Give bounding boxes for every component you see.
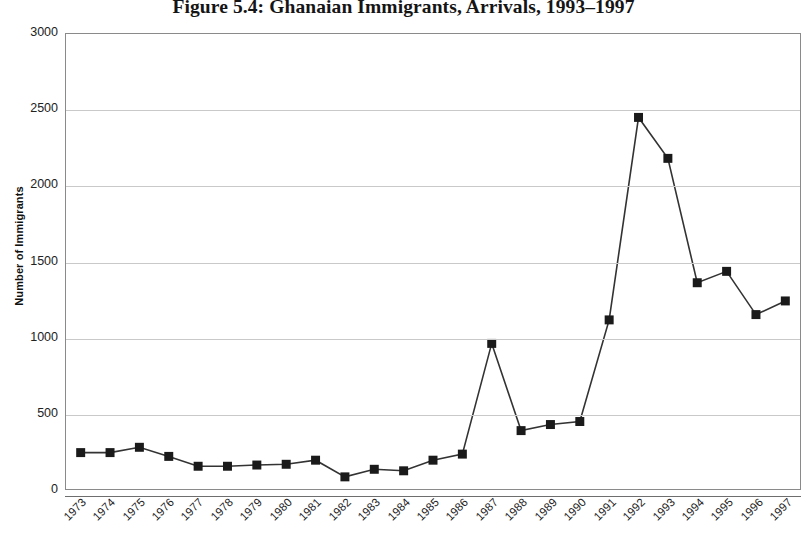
y-tick-label: 1500 xyxy=(14,255,58,268)
gridline xyxy=(66,415,800,416)
x-tick-label: 1982 xyxy=(326,496,353,523)
data-point-marker[interactable] xyxy=(751,310,760,319)
data-point-marker[interactable] xyxy=(693,278,702,287)
x-tick-label: 1996 xyxy=(738,496,765,523)
data-point-marker[interactable] xyxy=(429,456,438,465)
data-point-marker[interactable] xyxy=(634,113,643,122)
data-point-marker[interactable] xyxy=(605,315,614,324)
gridline xyxy=(66,263,800,264)
data-point-marker[interactable] xyxy=(370,465,379,474)
y-tick-label: 1000 xyxy=(14,331,58,344)
data-point-marker[interactable] xyxy=(487,339,496,348)
data-point-marker[interactable] xyxy=(223,462,232,471)
y-tick-label: 0 xyxy=(14,483,58,496)
y-tick-label: 3000 xyxy=(14,26,58,39)
x-tick-label: 1973 xyxy=(61,496,88,523)
data-point-marker[interactable] xyxy=(722,267,731,276)
x-tick-label: 1975 xyxy=(120,496,147,523)
gridline xyxy=(66,186,800,187)
plot-area xyxy=(65,33,801,490)
data-point-marker[interactable] xyxy=(663,154,672,163)
y-tick-label: 2000 xyxy=(14,178,58,191)
x-tick-label: 1980 xyxy=(267,496,294,523)
x-tick-label: 1978 xyxy=(208,496,235,523)
gridline xyxy=(66,339,800,340)
x-tick-label: 1990 xyxy=(562,496,589,523)
x-tick-label: 1991 xyxy=(591,496,618,523)
x-tick-label: 1995 xyxy=(709,496,736,523)
data-point-marker[interactable] xyxy=(781,296,790,305)
x-tick-label: 1979 xyxy=(238,496,265,523)
data-point-marker[interactable] xyxy=(76,448,85,457)
x-tick-label: 1994 xyxy=(679,496,706,523)
figure-container: Figure 5.4: Ghanaian Immigrants, Arrival… xyxy=(0,0,807,538)
line-series xyxy=(66,34,800,489)
x-tick-label: 1981 xyxy=(297,496,324,523)
x-tick-label: 1983 xyxy=(356,496,383,523)
x-tick-label: 1974 xyxy=(91,496,118,523)
data-point-marker[interactable] xyxy=(458,450,467,459)
data-point-marker[interactable] xyxy=(164,452,173,461)
data-point-marker[interactable] xyxy=(340,472,349,481)
series-line xyxy=(81,117,786,476)
data-point-marker[interactable] xyxy=(252,461,261,470)
x-tick-label: 1987 xyxy=(473,496,500,523)
data-point-marker[interactable] xyxy=(575,417,584,426)
x-tick-label: 1984 xyxy=(385,496,412,523)
x-tick-label: 1997 xyxy=(768,496,795,523)
y-axis-tick-labels: 050010001500200025003000 xyxy=(0,0,58,538)
x-tick-label: 1988 xyxy=(503,496,530,523)
y-tick-label: 2500 xyxy=(14,102,58,115)
data-point-marker[interactable] xyxy=(517,426,526,435)
x-axis-tick-labels: 1973197419751976197719781979198019811982… xyxy=(65,490,801,538)
y-tick-label: 500 xyxy=(14,407,58,420)
data-point-marker[interactable] xyxy=(106,448,115,457)
data-point-marker[interactable] xyxy=(135,443,144,452)
x-tick-label: 1992 xyxy=(621,496,648,523)
data-point-marker[interactable] xyxy=(546,420,555,429)
x-tick-label: 1993 xyxy=(650,496,677,523)
x-tick-label: 1977 xyxy=(179,496,206,523)
page-title: Figure 5.4: Ghanaian Immigrants, Arrival… xyxy=(0,0,807,18)
data-point-marker[interactable] xyxy=(311,456,320,465)
x-tick-label: 1986 xyxy=(444,496,471,523)
x-tick-label: 1989 xyxy=(532,496,559,523)
data-point-marker[interactable] xyxy=(399,466,408,475)
data-point-marker[interactable] xyxy=(194,462,203,471)
x-tick-label: 1976 xyxy=(150,496,177,523)
x-tick-label: 1985 xyxy=(414,496,441,523)
data-point-marker[interactable] xyxy=(282,460,291,469)
gridline xyxy=(66,110,800,111)
